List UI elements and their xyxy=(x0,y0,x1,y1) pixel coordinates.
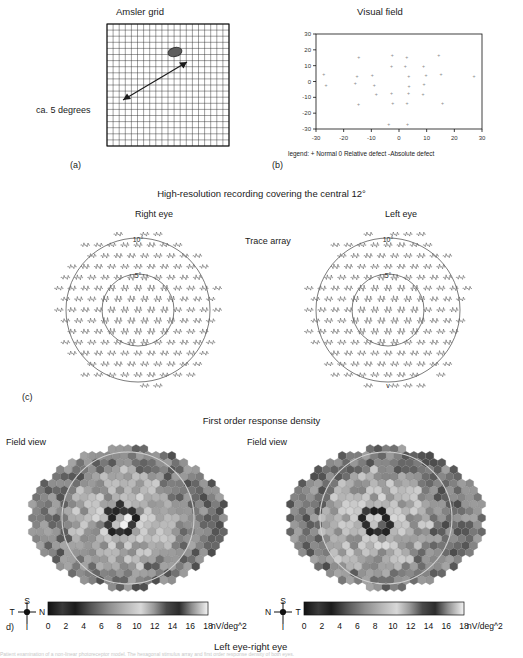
svg-text:+: + xyxy=(357,101,360,107)
colorbar-unit: nV/deg^2 xyxy=(211,621,247,631)
trace-array-left-eye: 10° 5° v xyxy=(298,222,478,397)
right-eye-label: Right eye xyxy=(135,209,173,219)
svg-text:10: 10 xyxy=(304,63,311,69)
visual-field-svg: 3020100-10-20-30 -30-20-100102030 ++++++… xyxy=(286,26,516,151)
svg-text:+: + xyxy=(390,90,393,96)
panel-label-c: (c) xyxy=(22,392,33,402)
colorbar-tick-labels: 024681012141618 xyxy=(46,621,213,631)
trace-waveforms xyxy=(54,232,222,388)
svg-text:4: 4 xyxy=(337,621,342,631)
colorbar-left-svg: S T N I xyxy=(6,596,256,636)
colorbar-gradient-right xyxy=(304,602,464,615)
svg-text:+: + xyxy=(371,72,374,78)
svg-text:0: 0 xyxy=(302,621,307,631)
svg-text:+: + xyxy=(406,121,409,127)
orient-nasal: N xyxy=(265,607,271,617)
svg-text:+: + xyxy=(422,81,425,87)
vf-plot-frame xyxy=(316,34,482,129)
svg-text:+: + xyxy=(391,52,394,58)
svg-text:-10: -10 xyxy=(367,135,376,141)
svg-text:4: 4 xyxy=(81,621,86,631)
svg-text:14: 14 xyxy=(168,621,178,631)
colorbar-right-svg: S N T I 024681012141618 nV/deg^2 xyxy=(262,596,512,636)
visual-field-figure: 3020100-10-20-30 -30-20-100102030 ++++++… xyxy=(286,26,516,151)
ring-label-10: 10° xyxy=(383,236,394,243)
response-density-map-left-eye xyxy=(279,446,494,592)
visual-field-legend: legend: + Normal 0 Relative defect -Abso… xyxy=(288,150,434,157)
svg-text:+: + xyxy=(407,73,410,79)
scotoma-arrow xyxy=(123,62,187,100)
trace-array-right-eye: 10° 5° xyxy=(48,222,228,397)
svg-text:-20: -20 xyxy=(302,110,311,116)
svg-text:10: 10 xyxy=(388,621,398,631)
left-eye-label: Left eye xyxy=(385,209,417,219)
svg-text:12: 12 xyxy=(406,621,416,631)
svg-text:-30: -30 xyxy=(302,126,311,132)
trace-array-right-svg: 10° 5° xyxy=(48,222,228,397)
svg-text:+: + xyxy=(404,63,407,69)
svg-text:-10: -10 xyxy=(302,94,311,100)
svg-text:+: + xyxy=(422,63,425,69)
panel-label-a: (a) xyxy=(70,160,81,170)
svg-text:+: + xyxy=(357,54,360,60)
svg-text:+: + xyxy=(439,71,442,77)
colorbar-left-group: S T N I xyxy=(6,596,256,636)
trace-marker: v xyxy=(386,382,390,389)
trace-array-left-svg: 10° 5° v xyxy=(298,222,478,397)
svg-text:6: 6 xyxy=(99,621,104,631)
svg-text:6: 6 xyxy=(355,621,360,631)
svg-text:+: + xyxy=(441,100,444,106)
svg-text:+: + xyxy=(405,54,408,60)
svg-text:+: + xyxy=(437,52,440,58)
amsler-annotation: ca. 5 degrees xyxy=(36,105,91,115)
svg-text:0: 0 xyxy=(397,135,401,141)
svg-text:+: + xyxy=(373,82,376,88)
response-density-map-right-eye xyxy=(24,446,239,592)
svg-text:+: + xyxy=(408,83,411,89)
svg-text:30: 30 xyxy=(304,31,311,37)
amsler-grid-svg xyxy=(105,22,231,148)
svg-text:8: 8 xyxy=(373,621,378,631)
svg-text:20: 20 xyxy=(304,47,311,53)
vf-y-axis: 3020100-10-20-30 xyxy=(302,31,316,132)
ring-label-5: 5° xyxy=(135,272,142,279)
svg-text:0: 0 xyxy=(46,621,51,631)
svg-text:-20: -20 xyxy=(339,135,348,141)
svg-text:12: 12 xyxy=(150,621,160,631)
svg-text:+: + xyxy=(322,71,325,77)
panel-label-b: (b) xyxy=(272,160,283,170)
orient-temporal: T xyxy=(295,607,300,617)
panel-c-title: High-resolution recording covering the c… xyxy=(0,188,523,199)
panel-label-d: d) xyxy=(6,622,14,632)
svg-text:+: + xyxy=(354,80,357,86)
hex-cells xyxy=(286,444,485,591)
svg-text:+: + xyxy=(391,100,394,106)
svg-text:+: + xyxy=(325,82,328,88)
ring-label-5: 5° xyxy=(385,272,392,279)
svg-text:20: 20 xyxy=(451,135,458,141)
svg-text:2: 2 xyxy=(319,621,324,631)
svg-text:30: 30 xyxy=(479,135,486,141)
vf-data-points: +++++++++++++++++++++++++++++ xyxy=(322,52,475,127)
svg-text:2: 2 xyxy=(63,621,68,631)
trace-array-label: Trace array xyxy=(245,236,291,246)
hexmap-right-svg xyxy=(24,446,239,592)
colorbar-tick-labels: 024681012141618 xyxy=(302,621,469,631)
orientation-cross-left: S T N I xyxy=(9,596,45,632)
svg-text:10: 10 xyxy=(423,135,430,141)
caption-fragment: Patient examination of a non-linear phot… xyxy=(0,651,523,658)
orient-nasal: N xyxy=(39,607,45,617)
vf-x-axis: -30-20-100102030 xyxy=(312,129,486,141)
svg-text:16: 16 xyxy=(185,621,195,631)
amsler-grid-figure xyxy=(105,22,231,148)
hexmap-left-svg xyxy=(279,446,494,592)
svg-text:+: + xyxy=(421,91,424,97)
orient-temporal: T xyxy=(9,607,14,617)
svg-text:8: 8 xyxy=(117,621,122,631)
panel-d-title: First order response density xyxy=(0,415,523,426)
colorbar-right-group: S N T I 024681012141618 nV/deg^2 xyxy=(262,596,512,636)
ring-label-10: 10° xyxy=(133,236,144,243)
svg-text:+: + xyxy=(387,121,390,127)
colorbar-unit: nV/deg^2 xyxy=(467,621,503,631)
svg-text:+: + xyxy=(375,91,378,97)
